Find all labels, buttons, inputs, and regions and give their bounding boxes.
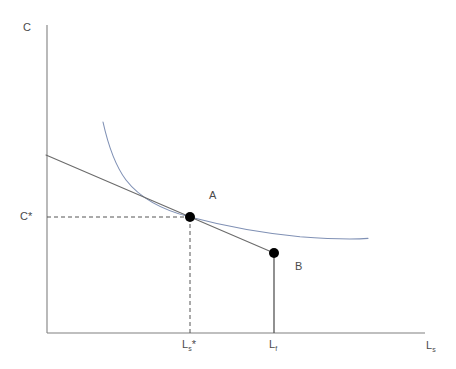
tick-label-c-star: C* (20, 211, 32, 222)
plot-svg (0, 0, 456, 369)
tick-label-ls-star: Ls* (182, 339, 196, 350)
point-a-label: A (209, 190, 216, 201)
figure-canvas: C Ls C* Ls* Lf A B (0, 0, 456, 369)
ls-star-asterisk: * (192, 338, 196, 350)
c-star-asterisk: * (28, 210, 32, 222)
tick-label-lf: Lf (269, 339, 277, 350)
point-b-label: B (295, 261, 302, 272)
c-star-base: C (20, 210, 28, 222)
point-b-marker (269, 248, 279, 258)
y-axis-label: C (23, 22, 31, 33)
indifference-curve (103, 122, 368, 239)
x-axis-label-subscript: s (432, 346, 436, 353)
x-axis-label: Ls (426, 340, 436, 351)
point-a-marker (185, 212, 195, 222)
lf-subscript: f (275, 345, 277, 352)
budget-line (46, 155, 274, 253)
